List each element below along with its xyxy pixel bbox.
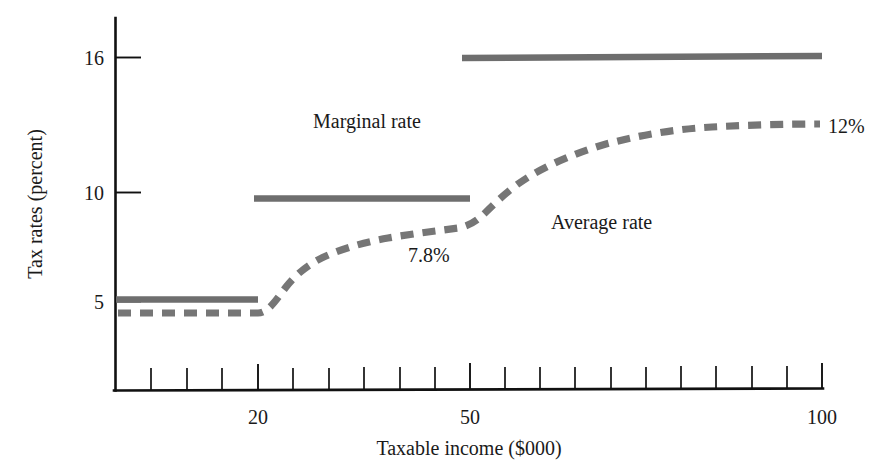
y-tick-label-10: 10	[84, 182, 104, 204]
tax-rate-chart: 16 10 5 Tax rates (percent)	[0, 0, 890, 468]
average-rate-endpoint-value: 12%	[828, 115, 865, 137]
y-tick-label-group: 16 10 5	[84, 47, 104, 313]
annotation-group: Marginal rate Average rate 7.8% 12%	[313, 110, 865, 266]
y-tick-group	[116, 58, 141, 302]
x-tick-label-100: 100	[807, 406, 837, 428]
x-tick-label-20: 20	[248, 406, 268, 428]
average-rate-curve	[118, 124, 820, 313]
x-tick-label-group: 20 50 100	[248, 406, 837, 428]
x-tick-group	[151, 363, 822, 390]
average-rate-midpoint-value: 7.8%	[408, 244, 450, 266]
y-tick-label-5: 5	[94, 291, 104, 313]
average-rate-series	[118, 124, 820, 313]
average-rate-label: Average rate	[551, 211, 652, 234]
marginal-rate-label: Marginal rate	[313, 110, 421, 133]
axis-group	[114, 18, 823, 391]
marginal-rate-segment-3	[462, 56, 822, 58]
x-axis-title: Taxable income ($000)	[376, 437, 561, 460]
x-tick-label-50: 50	[460, 406, 480, 428]
chart-canvas: 16 10 5 Tax rates (percent)	[0, 0, 890, 468]
y-tick-label-16: 16	[84, 47, 104, 69]
marginal-rate-series	[116, 56, 822, 300]
y-axis-title: Tax rates (percent)	[24, 129, 47, 279]
